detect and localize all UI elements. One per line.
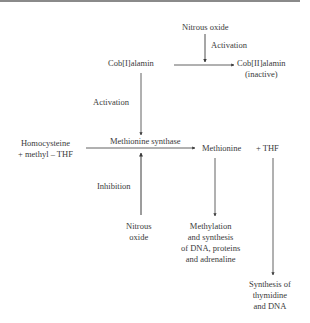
node-nitrous-oxide-bottom: Nitrous oxide (126, 221, 152, 243)
arrows-layer (0, 0, 310, 323)
methylation-line3: of DNA, proteins (181, 243, 240, 254)
cob2-line2: (inactive) (237, 69, 286, 80)
methylation-line4: and adrenaline (181, 254, 240, 265)
node-thf: + THF (256, 143, 279, 154)
node-homocysteine: Homocysteine + methyl – THF (18, 138, 73, 160)
label-activation-top: Activation (211, 40, 247, 51)
cob2-line1: Cob[II]alamin (237, 58, 286, 69)
homocysteine-line1: Homocysteine (18, 138, 73, 149)
synthesis-line1: Synthesis of (249, 279, 291, 290)
homocysteine-line2: + methyl – THF (18, 149, 73, 160)
node-methionine: Methionine (202, 143, 241, 154)
label-activation-left: Activation (93, 97, 129, 108)
synthesis-line2: thymidine (249, 290, 291, 301)
label-inhibition: Inhibition (97, 181, 131, 192)
label-methionine-synthase: Methionine synthase (110, 136, 181, 147)
node-nitrous-oxide-top: Nitrous oxide (182, 22, 229, 33)
node-cob2alamin: Cob[II]alamin (inactive) (237, 58, 286, 80)
methylation-line2: and synthesis (181, 232, 240, 243)
node-cob1alamin: Cob[I]alamin (108, 58, 154, 69)
nitrous-bottom-line2: oxide (126, 232, 152, 243)
node-synthesis-thymidine: Synthesis of thymidine and DNA (249, 279, 291, 312)
synthesis-line3: and DNA (249, 301, 291, 312)
node-methylation: Methylation and synthesis of DNA, protei… (181, 221, 240, 265)
nitrous-bottom-line1: Nitrous (126, 221, 152, 232)
methylation-line1: Methylation (181, 221, 240, 232)
